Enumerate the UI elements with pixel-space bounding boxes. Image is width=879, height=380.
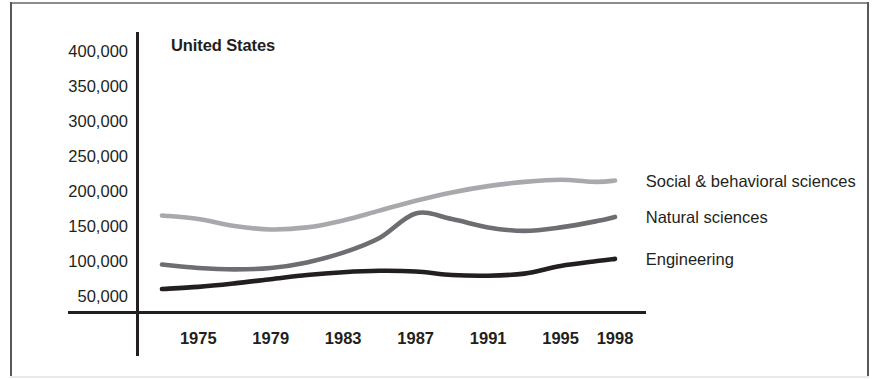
series-label-1: Social & behavioral sciences xyxy=(646,173,856,190)
series-line xyxy=(162,259,615,289)
series-line xyxy=(162,213,615,270)
series-curves xyxy=(0,0,879,380)
series-label-3: Engineering xyxy=(646,251,734,268)
series-line xyxy=(162,180,615,230)
chart-figure: United States 50,000100,000150,000200,00… xyxy=(0,0,879,380)
series-label-2: Natural sciences xyxy=(646,209,768,226)
